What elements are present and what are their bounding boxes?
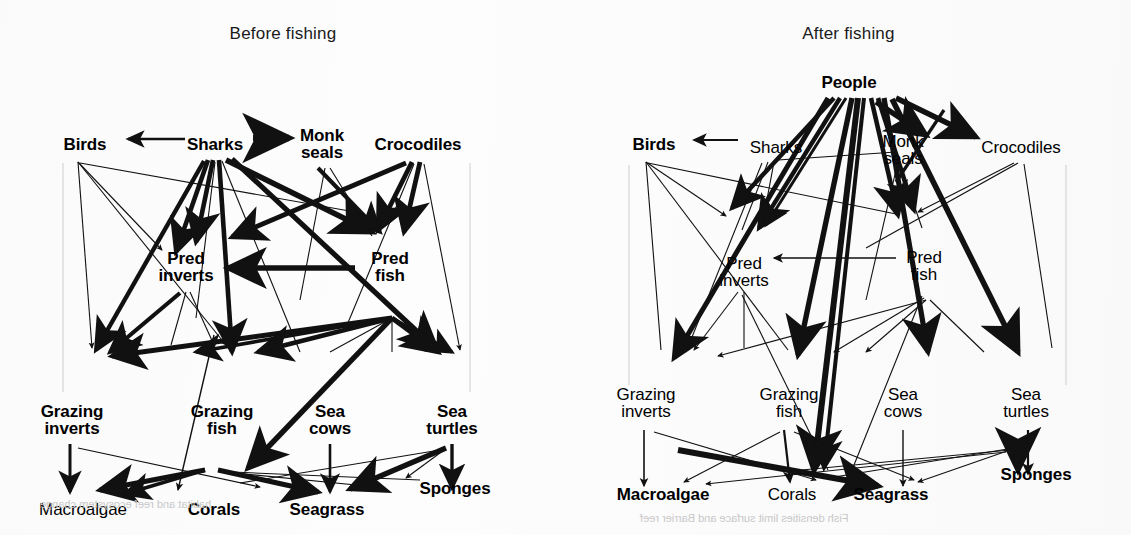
node-monk-seals: Monk seals — [882, 133, 923, 168]
node-birds: Birds — [64, 136, 107, 153]
node-sponges: Sponges — [1000, 466, 1071, 483]
node-corals: Corals — [768, 486, 817, 503]
node-birds: Birds — [633, 136, 676, 153]
panel-after-fishing: After fishing — [566, 0, 1131, 535]
node-macroalgae: Macroalgae — [39, 501, 127, 518]
node-crocodiles: Crocodiles — [375, 136, 462, 153]
node-pred-fish: Pred fish — [371, 250, 408, 285]
node-pred-fish: Pred fish — [906, 249, 942, 284]
node-grazing-fish: Grazing fish — [191, 403, 254, 438]
panel-before-fishing: Before fishing — [0, 0, 566, 535]
node-sea-turtles: Sea turtles — [426, 403, 477, 438]
node-pred-inverts: Pred inverts — [719, 255, 768, 290]
food-web-links-before — [0, 0, 566, 535]
node-grazing-fish: Grazing fish — [760, 386, 819, 421]
node-sea-cows: Sea cows — [309, 403, 351, 438]
node-pred-inverts: Pred inverts — [158, 250, 213, 285]
node-sharks: Sharks — [750, 139, 802, 156]
node-seagrass: Seagrass — [290, 501, 365, 518]
node-sea-turtles: Sea turtles — [1003, 386, 1049, 421]
node-seagrass: Seagrass — [854, 486, 929, 503]
node-sharks: Sharks — [187, 136, 243, 153]
node-corals: Corals — [188, 501, 240, 518]
figure-canvas: Before fishing — [0, 0, 1131, 535]
node-grazing-inverts: Grazing inverts — [41, 403, 104, 438]
node-grazing-inverts: Grazing inverts — [617, 386, 676, 421]
node-macroalgae: Macroalgae — [617, 486, 710, 503]
node-monk-seals: Monk seals — [300, 127, 344, 162]
node-sea-cows: Sea cows — [884, 386, 922, 421]
node-crocodiles: Crocodiles — [981, 139, 1060, 156]
node-sponges: Sponges — [419, 480, 490, 497]
node-people: People — [821, 74, 876, 91]
